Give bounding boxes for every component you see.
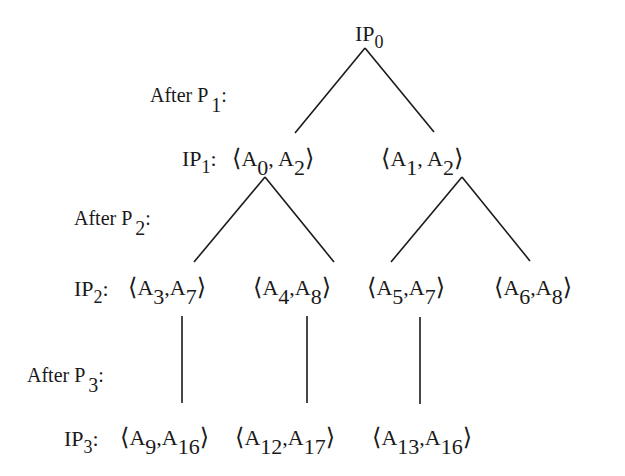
comma: , [417,146,423,171]
node-b-sub: 16 [441,434,463,459]
angle-open-icon: ⟨ [120,424,129,450]
edge-a1a2-left [391,177,462,262]
node-b: A [288,425,304,450]
angle-open-icon: ⟨ [372,424,381,450]
node-b: A [162,425,178,450]
node-a: A [137,275,153,300]
edge-ip0-left [295,48,365,133]
angle-close-icon: ⟩ [454,145,463,171]
node-a1-a2: ⟨A1, A2⟩ [381,146,463,170]
edge-a0a2-right [265,177,334,262]
root-node-ip0: IP0 [355,23,384,45]
node-a-sub: 13 [397,434,419,459]
angle-close-icon: ⟩ [563,274,572,300]
level-label: IP [74,276,94,301]
node-b-sub: 16 [178,434,200,459]
angle-open-icon: ⟨ [494,274,503,300]
tree-edges [0,0,625,476]
level-label: IP [182,146,202,171]
node-b-sub: 7 [186,284,197,309]
node-a-sub: 4 [278,284,289,309]
node-a13-a16: ⟨A13,A16⟩ [372,425,472,449]
node-a-sub: 5 [392,284,403,309]
level-colon: : [93,426,99,451]
node-b-sub: 2 [443,155,454,180]
node-a3-a7: ⟨A3,A7⟩ [128,275,206,299]
stage-label-p2: After P2: [74,208,151,228]
root-label: IP [355,21,375,46]
stage-colon: : [98,364,104,386]
stage-text: After P [150,84,208,106]
angle-open-icon: ⟨ [128,274,137,300]
node-a: A [241,146,257,171]
angle-close-icon: ⟩ [197,274,206,300]
stage-text: After P [27,364,85,386]
angle-open-icon: ⟨ [235,424,244,450]
angle-open-icon: ⟨ [367,274,376,300]
level-subscript: 3 [84,437,93,457]
root-subscript: 0 [375,32,384,52]
level-subscript: 1 [202,157,211,177]
stage-label-p1: After P1: [150,85,227,105]
level-label: IP [64,426,84,451]
stage-label-p3: After P3: [27,365,104,385]
stage-colon: : [221,84,227,106]
level-label-ip3: IP3: [64,428,99,450]
node-b-sub: 7 [425,284,436,309]
node-a4-a8: ⟨A4,A8⟩ [253,275,331,299]
node-b-sub: 8 [311,284,322,309]
edge-a1a2-right [462,177,530,261]
node-a6-a8: ⟨A6,A8⟩ [494,275,572,299]
node-b: A [278,146,294,171]
node-a: A [376,275,392,300]
node-b-sub: 8 [552,284,563,309]
node-a0-a2: ⟨A0, A2⟩ [232,146,314,170]
node-b: A [409,275,425,300]
comma: , [268,146,274,171]
node-a5-a7: ⟨A5,A7⟩ [367,275,445,299]
angle-close-icon: ⟩ [463,424,472,450]
angle-open-icon: ⟨ [381,145,390,171]
level-label-ip2: IP2: [74,278,109,300]
angle-close-icon: ⟩ [326,424,335,450]
node-a-sub: 0 [257,155,268,180]
level-label-ip1: IP1: [182,148,217,170]
node-a: A [262,275,278,300]
angle-close-icon: ⟩ [200,424,209,450]
node-b: A [295,275,311,300]
node-b-sub: 17 [304,434,326,459]
level-colon: : [211,146,217,171]
node-a12-a17: ⟨A12,A17⟩ [235,425,335,449]
angle-close-icon: ⟩ [305,145,314,171]
node-a: A [390,146,406,171]
level-colon: : [103,276,109,301]
node-a: A [244,425,260,450]
stage-subscript: 2 [135,217,145,239]
node-a-sub: 6 [519,284,530,309]
edge-ip0-right [365,48,434,132]
node-b: A [536,275,552,300]
edge-a0a2-left [194,177,265,262]
node-a-sub: 9 [145,434,156,459]
stage-colon: : [145,207,151,229]
angle-close-icon: ⟩ [322,274,331,300]
node-a9-a16: ⟨A9,A16⟩ [120,425,209,449]
node-a-sub: 1 [406,155,417,180]
node-b-sub: 2 [294,155,305,180]
angle-open-icon: ⟨ [232,145,241,171]
angle-close-icon: ⟩ [436,274,445,300]
stage-subscript: 1 [211,94,221,116]
stage-subscript: 3 [88,374,98,396]
node-b: A [427,146,443,171]
node-a-sub: 12 [260,434,282,459]
node-b: A [425,425,441,450]
node-b: A [170,275,186,300]
angle-open-icon: ⟨ [253,274,262,300]
node-a: A [503,275,519,300]
node-a: A [381,425,397,450]
node-a-sub: 3 [153,284,164,309]
level-subscript: 2 [94,287,103,307]
stage-text: After P [74,207,132,229]
node-a: A [129,425,145,450]
